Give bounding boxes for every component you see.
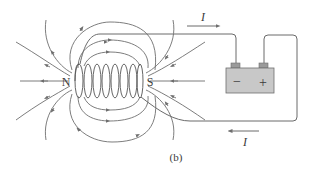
battery-positive-sign: + [259,75,267,90]
battery-positive-terminal [259,63,268,68]
current-label-top: I [200,10,206,24]
north-pole-label: N [62,75,71,89]
solenoid-coil [75,64,143,98]
figure-caption: (b) [170,151,183,164]
battery-negative-terminal [231,63,240,68]
south-pole-label: S [147,75,154,89]
solenoid-diagram: − + N S I I (b) [0,0,314,174]
current-label-bottom: I [242,135,248,149]
battery-negative-sign: − [233,74,241,89]
